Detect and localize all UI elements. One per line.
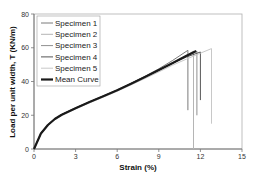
legend-label: Mean Curve [55,75,99,84]
y-tick-label: 80 [21,11,29,18]
legend-label: Specimen 3 [55,41,98,50]
y-tick-label: 40 [21,78,29,85]
x-tick-label: 15 [238,153,246,160]
legend: Specimen 1Specimen 2Specimen 3Specimen 4… [37,16,100,86]
x-axis-label: Strain (%) [119,163,157,172]
legend-label: Specimen 4 [55,53,98,62]
y-tick-label: 0 [25,146,29,153]
x-tick-label: 6 [115,153,119,160]
x-axis-ticks: 03691215 [32,149,246,160]
legend-label: Specimen 2 [55,30,98,39]
y-tick-label: 60 [21,44,29,51]
legend-label: Specimen 1 [55,19,98,28]
strain-load-chart: 03691215 020406080 Strain (%) Load per u… [0,0,257,176]
y-axis-label: Load per unit width, T (KN/m) [8,26,17,138]
x-tick-label: 3 [74,153,78,160]
y-axis-ticks: 020406080 [21,11,34,153]
x-tick-label: 12 [197,153,205,160]
x-tick-label: 9 [157,153,161,160]
legend-label: Specimen 5 [55,64,98,73]
x-tick-label: 0 [32,153,36,160]
y-tick-label: 20 [21,112,29,119]
